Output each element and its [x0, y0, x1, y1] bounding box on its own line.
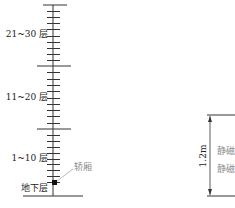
basement-label: 地下层 [21, 182, 48, 193]
dim-label-1: 静磁 [217, 145, 235, 156]
segment-label-21-30: 21~30 层 [6, 29, 48, 39]
dim-label-2: 静磁I [217, 163, 235, 174]
elevator-car-icon [52, 180, 57, 185]
dim-arrow-up-icon [208, 116, 212, 122]
dim-arrow-down-icon [208, 189, 212, 195]
dim-value: 1.2m [198, 144, 208, 167]
segment-label-1-10: 1~10 层 [11, 153, 48, 163]
elevator-diagram: 21~30 层 11~20 层 1~10 层 地下层 轿厢 1.2m 静磁 静磁… [0, 0, 235, 208]
car-label: 轿厢 [74, 161, 92, 172]
segment-label-11-20: 11~20 层 [6, 92, 48, 102]
